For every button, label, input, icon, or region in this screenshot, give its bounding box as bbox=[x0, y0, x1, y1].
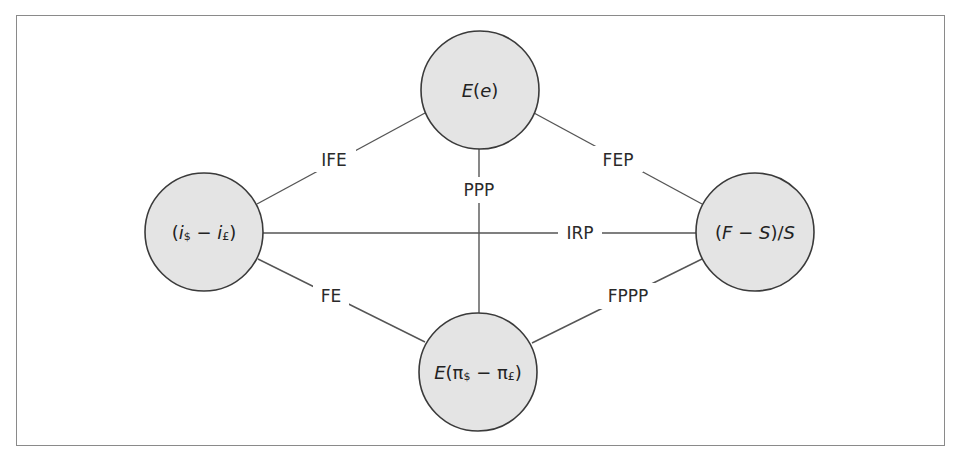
node-inflation-differential: E(π$ − π£) bbox=[419, 313, 537, 431]
edge-label-irp: IRP bbox=[566, 223, 593, 243]
node-expected-exchange-rate: E(e) bbox=[421, 31, 539, 149]
edge-label-fep: FEP bbox=[603, 150, 634, 170]
edge-label-fppp: FPPP bbox=[608, 286, 649, 306]
node-interest-differential: (i$ − i£) bbox=[145, 173, 263, 291]
edge-label-ppp: PPP bbox=[464, 180, 495, 200]
node-label-right: (F − S)/S bbox=[715, 222, 795, 243]
edge-label-fe: FE bbox=[321, 286, 342, 306]
node-forward-premium: (F − S)/S bbox=[696, 173, 814, 291]
edge-label-ife: IFE bbox=[321, 150, 347, 170]
parity-diagram: IFE FEP PPP IRP FE FPPP E(e) (i$ − i£) (… bbox=[0, 0, 960, 461]
node-label-top: E(e) bbox=[462, 80, 499, 101]
